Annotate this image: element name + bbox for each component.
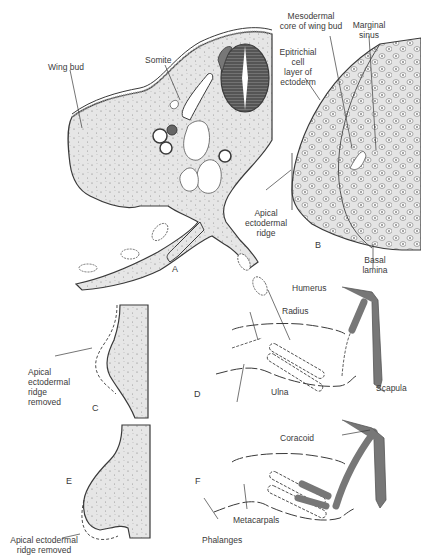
panel-e-section bbox=[82, 425, 150, 540]
label-wing-bud: Wing bud bbox=[48, 62, 84, 72]
panel-c-section bbox=[96, 305, 148, 418]
label-coracoid: Coracoid bbox=[280, 433, 314, 443]
label-humerus: Humerus bbox=[292, 283, 326, 293]
label-phalanges: Phalanges bbox=[202, 535, 242, 545]
panel-a-section bbox=[68, 28, 272, 298]
label-metacarpals: Metacarpals bbox=[233, 515, 279, 525]
panel-letter-d: D bbox=[194, 389, 201, 399]
panel-letter-c: C bbox=[92, 403, 99, 413]
panel-letter-a: A bbox=[172, 264, 178, 274]
label-apical-ectodermal-ridge: Apical ectodermal ridge bbox=[240, 208, 292, 238]
label-marginal-sinus: Marginal sinus bbox=[345, 20, 393, 40]
label-mesodermal-core: Mesodermal core of wing bud bbox=[275, 11, 347, 31]
label-epitrichial-layer: Epitrichial cell layer of ectoderm bbox=[272, 47, 324, 87]
wing-bud-diagram bbox=[0, 0, 421, 558]
label-aer-removed-e: Apical ectodermal ridge removed bbox=[2, 535, 86, 555]
panel-letter-e: E bbox=[66, 476, 72, 486]
label-somite: Somite bbox=[145, 55, 171, 65]
label-radius: Radius bbox=[282, 306, 308, 316]
label-ulna: Ulna bbox=[271, 387, 288, 397]
panel-letter-b: B bbox=[315, 240, 321, 250]
label-basal-lamina: Basal lamina bbox=[357, 255, 393, 275]
panel-d-skeleton bbox=[216, 287, 382, 393]
panel-letter-f: F bbox=[195, 476, 201, 486]
label-scapula: Scapula bbox=[376, 383, 407, 393]
label-aer-removed-c: Apical ectodermal ridge removed bbox=[28, 367, 70, 407]
